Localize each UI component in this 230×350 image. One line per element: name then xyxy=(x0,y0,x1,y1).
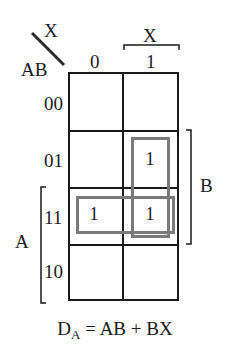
top-bracket-label: X xyxy=(143,26,157,45)
row-header-00: 00 xyxy=(44,94,63,113)
left-bracket-label: A xyxy=(15,232,29,251)
col-header-1: 1 xyxy=(146,52,156,71)
row-header-01: 01 xyxy=(44,151,63,170)
row-var-label: AB xyxy=(21,60,47,79)
cell-11-1: 1 xyxy=(140,205,160,223)
right-bracket-label: B xyxy=(200,176,213,195)
equation: DA = AB + BX xyxy=(0,318,230,343)
row-header-11: 11 xyxy=(44,208,62,227)
cell-11-0: 1 xyxy=(84,205,104,223)
col-header-0: 0 xyxy=(90,52,100,71)
row-header-10: 10 xyxy=(44,262,63,281)
corner-diagonal xyxy=(0,0,230,350)
col-var-label: X xyxy=(44,21,58,40)
cell-01-1: 1 xyxy=(140,150,160,168)
